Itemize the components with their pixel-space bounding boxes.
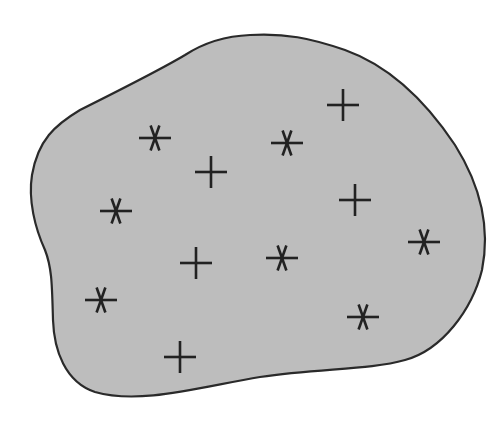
region-blob: [31, 35, 485, 397]
figure: Irregular closed region containing two c…: [0, 0, 502, 440]
figure-canvas: [0, 0, 502, 440]
